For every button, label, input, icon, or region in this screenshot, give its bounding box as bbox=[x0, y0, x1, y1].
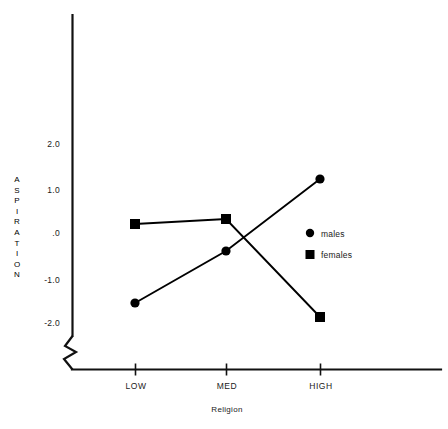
data-point-females-high bbox=[315, 312, 325, 322]
data-point-females-med bbox=[221, 214, 231, 224]
legend-marker-males bbox=[306, 229, 314, 237]
data-point-males-high bbox=[315, 174, 324, 183]
y-axis-title-letter: P bbox=[10, 196, 24, 207]
data-point-males-med bbox=[221, 246, 230, 255]
series-line-males bbox=[135, 179, 320, 303]
x-tick-label-high: HIGH bbox=[291, 381, 351, 391]
y-axis-title-letter: T bbox=[10, 239, 24, 250]
y-axis-title-letter: N bbox=[10, 270, 24, 281]
legend-label-females: females bbox=[321, 250, 352, 260]
axis-break-symbol bbox=[64, 336, 76, 370]
chart-figure: 2.0 1.0 .0 -1.0 -2.0 A S P I R A T I O N… bbox=[0, 0, 448, 429]
y-axis-title-letter: A bbox=[10, 228, 24, 239]
y-tick-label-neg2: -2.0 bbox=[14, 318, 60, 328]
y-axis-title-letter: R bbox=[10, 217, 24, 228]
x-tick-label-med: MED bbox=[197, 381, 257, 391]
legend-label-males: males bbox=[321, 229, 345, 239]
chart-canvas bbox=[0, 0, 448, 429]
series-line-females bbox=[135, 219, 320, 317]
y-axis-title-letter: O bbox=[10, 260, 24, 271]
y-axis-title-letter: A bbox=[10, 175, 24, 186]
data-point-females-low bbox=[130, 219, 140, 229]
x-axis-title: Religion bbox=[167, 405, 287, 414]
y-axis-title-letter: S bbox=[10, 186, 24, 197]
data-point-males-low bbox=[130, 298, 139, 307]
y-axis-title-letter: I bbox=[10, 249, 24, 260]
legend-marker-females bbox=[306, 250, 315, 259]
y-axis-title-letter: I bbox=[10, 207, 24, 218]
y-tick-label-2: 2.0 bbox=[14, 139, 60, 149]
y-axis-title: A S P I R A T I O N bbox=[10, 175, 24, 281]
x-tick-label-low: LOW bbox=[106, 381, 166, 391]
